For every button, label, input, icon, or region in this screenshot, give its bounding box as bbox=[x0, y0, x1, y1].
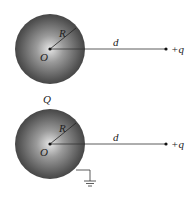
figure-isolated-sphere: R O d +q bbox=[15, 14, 184, 84]
center-point bbox=[48, 47, 51, 50]
center-label: O bbox=[40, 146, 48, 158]
point-charge-label: +q bbox=[171, 43, 184, 55]
sphere-charge-label: Q bbox=[43, 93, 51, 105]
figure-grounded-sphere: Q R O d +q bbox=[15, 93, 184, 186]
point-charge-label: +q bbox=[171, 138, 184, 150]
ground-icon bbox=[76, 170, 96, 186]
radius-label: R bbox=[58, 27, 66, 39]
center-point bbox=[48, 142, 51, 145]
diagram-canvas: R O d +q Q R O d +q bbox=[0, 0, 196, 201]
radius-label: R bbox=[58, 122, 66, 134]
point-charge-dot bbox=[164, 47, 167, 50]
distance-label: d bbox=[113, 36, 119, 48]
center-label: O bbox=[40, 51, 48, 63]
distance-label: d bbox=[113, 131, 119, 143]
point-charge-dot bbox=[164, 142, 167, 145]
